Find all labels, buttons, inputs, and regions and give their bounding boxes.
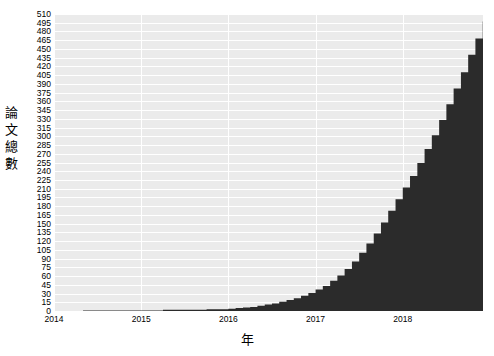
y-axis-title: 論 文 總 數 xyxy=(2,104,20,172)
y-tick-label: 435 xyxy=(37,53,51,62)
y-axis-title-char-2: 文 xyxy=(2,121,20,138)
chart-figure: 論 文 總 數 01530456075901051201351501651801… xyxy=(0,0,494,356)
y-tick-label: 420 xyxy=(37,62,51,71)
y-axis-title-char-3: 總 xyxy=(2,138,20,155)
y-tick-label: 390 xyxy=(37,80,51,89)
y-tick-label: 315 xyxy=(37,123,51,132)
x-tick-label: 2017 xyxy=(306,314,325,324)
y-tick-label: 150 xyxy=(37,219,51,228)
y-tick-label: 510 xyxy=(37,10,51,19)
x-tick-label: 2014 xyxy=(45,314,64,324)
y-tick-label: 225 xyxy=(37,176,51,185)
x-tick-label: 2016 xyxy=(219,314,238,324)
y-tick-label: 210 xyxy=(37,184,51,193)
y-tick-label: 15 xyxy=(42,298,51,307)
y-axis-tick-labels: 0153045607590105120135150165180195210225… xyxy=(20,0,51,356)
y-tick-label: 480 xyxy=(37,27,51,36)
y-tick-label: 90 xyxy=(42,254,51,263)
y-tick-label: 375 xyxy=(37,88,51,97)
y-tick-label: 495 xyxy=(37,18,51,27)
y-tick-label: 120 xyxy=(37,237,51,246)
y-tick-label: 30 xyxy=(42,289,51,298)
series-path xyxy=(54,22,483,311)
cumulative-papers-area-series xyxy=(54,14,483,311)
y-tick-label: 450 xyxy=(37,45,51,54)
y-axis-title-char-1: 論 xyxy=(2,104,20,121)
x-axis-title: 年 xyxy=(0,332,494,348)
x-axis-tick-labels: 20142015201620172018 xyxy=(0,314,494,328)
y-tick-label: 330 xyxy=(37,115,51,124)
y-tick-label: 195 xyxy=(37,193,51,202)
y-tick-label: 75 xyxy=(42,263,51,272)
y-tick-label: 255 xyxy=(37,158,51,167)
x-tick-label: 2015 xyxy=(132,314,151,324)
y-tick-label: 270 xyxy=(37,150,51,159)
y-axis-title-char-4: 數 xyxy=(2,155,20,172)
x-tick-label: 2018 xyxy=(393,314,412,324)
plot-area xyxy=(54,14,483,311)
y-tick-label: 285 xyxy=(37,141,51,150)
y-tick-label: 105 xyxy=(37,246,51,255)
y-tick-label: 465 xyxy=(37,36,51,45)
y-tick-label: 300 xyxy=(37,132,51,141)
y-tick-label: 165 xyxy=(37,211,51,220)
y-tick-label: 240 xyxy=(37,167,51,176)
y-tick-label: 345 xyxy=(37,106,51,115)
y-tick-label: 135 xyxy=(37,228,51,237)
y-tick-label: 45 xyxy=(42,281,51,290)
y-tick-label: 405 xyxy=(37,71,51,80)
y-tick-label: 360 xyxy=(37,97,51,106)
y-tick-label: 180 xyxy=(37,202,51,211)
y-tick-label: 60 xyxy=(42,272,51,281)
